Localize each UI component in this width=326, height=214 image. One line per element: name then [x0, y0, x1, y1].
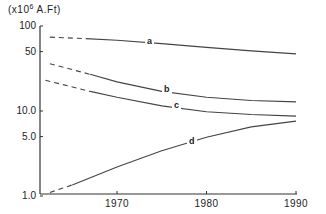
curve-c-dashed: [45, 80, 90, 91]
curve-b-dashed: [50, 64, 90, 75]
y-tick-label: 5.0: [2, 131, 36, 142]
curve-label-b: b: [162, 84, 172, 94]
y-tick-label: 10.0: [2, 105, 36, 116]
x-tick-label: 1980: [187, 198, 227, 209]
y-tick-label: 1.0: [2, 190, 36, 201]
curve-a: [86, 39, 296, 54]
curve-label-a: a: [145, 36, 154, 46]
curve-d: [72, 121, 296, 185]
curve-a-dashed: [50, 37, 86, 39]
curve-d-dashed: [50, 185, 72, 193]
curve-label-c: c: [172, 100, 181, 110]
x-tick-label: 1970: [97, 198, 137, 209]
x-tick-label: 1990: [276, 198, 316, 209]
chart-plot: [0, 0, 326, 214]
y-tick-label: 100: [2, 20, 36, 31]
y-tick-label: 50: [2, 46, 36, 57]
y-axis-unit-label: (x106 A.Ft): [8, 3, 61, 15]
curves: [45, 37, 296, 192]
curve-label-d: d: [187, 136, 197, 146]
